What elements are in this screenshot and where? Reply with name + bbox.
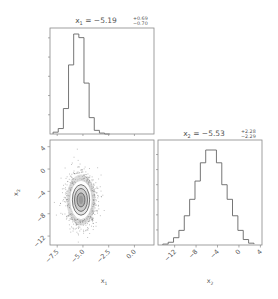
x2-axis-label-bottom: x2 [207,277,214,286]
x2-tick-label: 4 [39,144,48,153]
x2-tick-label: −4 [35,189,47,201]
title-x2-minus: −2.29 [241,134,256,139]
x1-tick-label: −2.5 [95,248,112,265]
panel-frame [50,28,154,134]
x2-tick-label: 0 [39,167,48,176]
x1-tick-label: −7.5 [44,248,61,265]
x2-axis-label: x2 [12,189,21,196]
histogram-x1: x1 = −5.19+0.69−0.70 [48,16,154,136]
corner-plot: x1 = −5.19+0.69−0.70−7.5−5.0−2.50.040−4−… [0,0,278,299]
title-x2: x2 = −5.53 [183,129,225,139]
x1-tick-label: −5.0 [70,248,87,265]
x2-tick-label: 4 [255,248,264,257]
title-x1: x1 = −5.19 [75,16,117,26]
x2-tick-label: −8 [187,248,199,260]
x1-tick-label: 0.0 [125,248,138,261]
x2-tick-label: −12 [163,248,178,263]
histogram-x2: −12−8−404x2x2 = −5.53+2.28−2.29 [156,129,264,286]
x2-tick-label: −12 [32,234,47,249]
x2-tick-label: −8 [35,211,47,223]
x2-tick-label: −4 [208,248,220,260]
title-x1-minus: −0.70 [133,21,148,26]
x2-tick-label: 0 [234,248,243,257]
corner-plot-canvas: x1 = −5.19+0.69−0.70−7.5−5.0−2.50.040−4−… [0,0,278,299]
density-x1-x2: −7.5−5.0−2.50.040−4−8−12x1x2 [12,140,154,286]
x1-axis-label: x1 [101,277,108,286]
panel-frame [158,140,262,245]
